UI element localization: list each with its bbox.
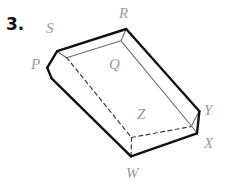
outer-edge-front-left-short xyxy=(47,68,51,79)
vertex-label-x: X xyxy=(204,136,213,151)
outer-edge-S-to-R xyxy=(57,29,126,51)
inner-wall-right xyxy=(121,41,192,126)
outer-edge-R-to-Y xyxy=(126,29,199,111)
outer-edge-X-to-W xyxy=(131,133,197,156)
figure-canvas: 3. S R P Q Z Y X W xyxy=(0,0,230,192)
vertex-label-z: Z xyxy=(137,107,145,122)
vertex-label-w: W xyxy=(126,166,139,181)
outer-edge-W-to-P-front xyxy=(52,78,131,156)
hidden-edge-corner-drop xyxy=(131,138,132,157)
problem-number: 3. xyxy=(6,16,24,33)
vertex-label-y: Y xyxy=(204,103,212,118)
outer-edge-P-to-S xyxy=(47,51,57,67)
vertex-label-s: S xyxy=(46,21,54,36)
vertex-label-q: Q xyxy=(109,57,120,72)
vertex-label-r: R xyxy=(119,6,128,21)
inner-rim-top-left xyxy=(58,52,67,58)
vertex-label-p: P xyxy=(31,57,40,72)
hidden-edge-back-right xyxy=(132,127,192,138)
outer-edges-group xyxy=(47,29,199,156)
prism-drawing xyxy=(0,0,230,192)
